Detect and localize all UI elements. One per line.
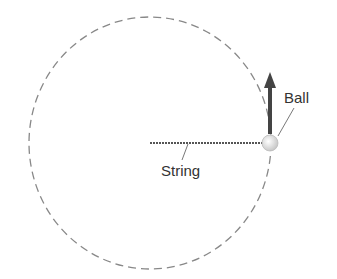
ball-label: Ball (284, 89, 309, 106)
circular-motion-diagram (0, 0, 337, 279)
string-leader-line (182, 144, 188, 160)
ball (262, 135, 278, 151)
ball-leader-line (278, 108, 294, 136)
velocity-arrow-head-icon (264, 72, 276, 88)
string-label: String (161, 162, 200, 179)
